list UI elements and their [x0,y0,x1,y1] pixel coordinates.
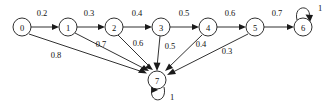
node-7[interactable]: 7 [148,71,166,89]
self-loop-weight-label: 1 [318,3,322,13]
edge-weight-label: 0.8 [51,50,62,60]
edge-1-to-2: 0.3 [77,8,105,30]
arrow-head-icon [154,63,161,72]
edge-weight-label: 0.4 [132,8,143,18]
arrow-head-icon [52,24,59,30]
edge-5-to-6: 0.7 [264,8,294,30]
node-label: 7 [155,76,159,86]
edge-line [157,36,160,67]
node-4[interactable]: 4 [199,18,217,36]
arrow-head-icon [287,24,294,30]
node-5[interactable]: 5 [246,18,264,36]
node-label: 3 [159,23,163,33]
edge-weight-label: 0.6 [133,38,144,48]
edge-weight-label: 0.7 [96,39,107,49]
node-1[interactable]: 1 [59,18,77,36]
edge-3-to-7: 0.5 [154,36,176,71]
edge-3-to-4: 0.5 [170,8,199,30]
self-loop-group: 1 1 [151,3,322,102]
edge-weight-label: 0.2 [37,8,48,18]
edge-weight-label: 0.4 [196,39,207,49]
node-0[interactable]: 0 [13,18,31,36]
edge-weight-label: 0.5 [165,41,176,51]
edge-weight-label: 0.6 [225,8,236,18]
edge-weight-label: 0.5 [179,8,190,18]
edge-weight-label: 0.3 [222,46,233,56]
edge-2-to-7: 0.6 [118,35,153,70]
arrow-head-icon [98,24,105,30]
node-label: 5 [253,23,257,33]
self-loop-weight-label: 1 [170,92,174,102]
arrow-head-icon [145,24,152,30]
node-6[interactable]: 6 [294,18,312,36]
node-label: 1 [66,23,70,33]
state-transition-diagram: 0.2 0.3 0.4 0.5 0.6 [0,0,331,108]
node-label: 0 [20,23,24,33]
edge-4-to-5: 0.6 [217,8,246,30]
arrow-head-icon [192,24,199,30]
edge-group-to-seven: 0.8 0.7 0.6 0.5 0.4 [29,33,248,75]
node-2[interactable]: 2 [105,18,123,36]
node-3[interactable]: 3 [152,18,170,36]
node-label: 2 [112,23,116,33]
edge-2-to-3: 0.4 [123,8,152,30]
graph-canvas: 0.2 0.3 0.4 0.5 0.6 [0,0,331,108]
arrow-head-icon [239,24,246,30]
edge-5-to-7: 0.3 [167,34,248,75]
edge-weight-label: 0.7 [272,8,283,18]
edge-weight-label: 0.3 [84,8,95,18]
edge-line [29,34,143,72]
node-label: 6 [301,23,305,33]
edge-0-to-1: 0.2 [31,8,59,30]
